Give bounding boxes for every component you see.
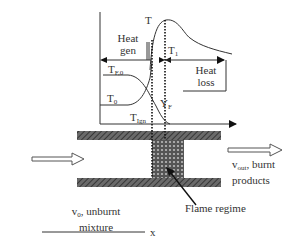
diagram-canvas [0, 0, 296, 248]
label-x-axis: x [150, 226, 156, 238]
label-temperature: T [145, 14, 152, 26]
label-flame-regime: Flame regime [185, 202, 246, 214]
label-t1: T1 [168, 44, 178, 60]
heat-gen-marker [147, 42, 149, 60]
outlet-flow-arrow [228, 144, 282, 156]
channel-top-wall [77, 131, 221, 140]
label-outlet: vout, burnt products [232, 158, 275, 186]
label-inlet: v0, unburnt mixture [60, 205, 132, 233]
label-fuel-initial: TF,0 [108, 63, 123, 79]
label-ignition-temp: TIgn [130, 111, 146, 127]
label-fuel-mass-fraction: YF [160, 97, 172, 113]
label-ambient-temp: T0 [107, 92, 117, 108]
channel-bottom-wall [77, 178, 221, 187]
label-heat-gen: Heat gen [113, 32, 143, 56]
temperature-curve [150, 20, 232, 70]
inlet-flow-arrow [32, 153, 84, 165]
label-heat-loss: Heat loss [188, 64, 224, 88]
